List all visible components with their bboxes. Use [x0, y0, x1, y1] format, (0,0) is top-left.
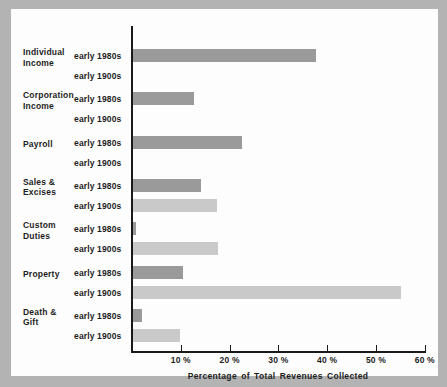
x-tick-20 — [230, 345, 231, 353]
series-label-5-0: early 1980s — [74, 268, 128, 278]
bar-2-0 — [133, 136, 242, 149]
bar-5-0 — [133, 266, 183, 279]
bar-6-0 — [133, 309, 142, 322]
bar-4-0 — [133, 222, 136, 235]
bar-4-1 — [133, 242, 218, 255]
series-label-2-1: early 1900s — [74, 158, 128, 168]
x-tick-50 — [376, 345, 377, 353]
series-label-0-1: early 1900s — [74, 71, 128, 81]
series-label-3-1: early 1900s — [74, 201, 128, 211]
chart-panel: 10 %20 %30 %40 %50 %60 % IndividualIncom… — [11, 9, 438, 376]
series-label-6-0: early 1980s — [74, 311, 128, 321]
plot-area: 10 %20 %30 %40 %50 %60 % IndividualIncom… — [11, 9, 438, 376]
series-label-3-0: early 1980s — [74, 181, 128, 191]
series-label-4-0: early 1980s — [74, 224, 128, 234]
x-tick-40 — [327, 345, 328, 353]
x-tick-10 — [181, 345, 182, 353]
x-tick-60 — [425, 345, 426, 353]
series-label-5-1: early 1900s — [74, 288, 128, 298]
series-label-0-0: early 1980s — [74, 51, 128, 61]
series-label-1-0: early 1980s — [74, 94, 128, 104]
x-tick-label-10: 10 % — [171, 355, 191, 365]
x-tick-label-20: 20 % — [220, 355, 240, 365]
bar-6-1 — [133, 329, 180, 342]
bar-3-1 — [133, 199, 217, 212]
bar-1-0 — [133, 92, 194, 105]
bar-0-0 — [133, 49, 316, 62]
x-tick-label-60: 60 % — [415, 355, 435, 365]
x-tick-label-50: 50 % — [366, 355, 386, 365]
series-label-1-1: early 1900s — [74, 114, 128, 124]
x-tick-30 — [278, 345, 279, 353]
x-tick-label-40: 40 % — [317, 355, 337, 365]
series-label-6-1: early 1900s — [74, 331, 128, 341]
x-axis-title: Percentage of Total Revenues Collected — [131, 371, 425, 381]
bar-3-0 — [133, 179, 201, 192]
series-label-4-1: early 1900s — [74, 244, 128, 254]
x-tick-0 — [132, 345, 133, 353]
series-label-2-0: early 1980s — [74, 138, 128, 148]
bar-5-1 — [133, 286, 401, 299]
x-tick-label-30: 30 % — [268, 355, 288, 365]
